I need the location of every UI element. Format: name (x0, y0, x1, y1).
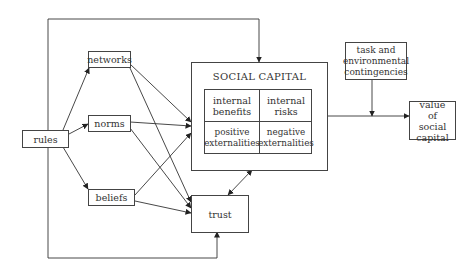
beliefs-label: beliefs (96, 192, 128, 203)
task-contingencies-label: task and environmental contingencies (343, 45, 409, 78)
negative-externalities-cell: negative externalities (260, 122, 312, 153)
value-label: value of social capital (415, 99, 450, 143)
norms-node: norms (88, 115, 131, 132)
networks-label: networks (87, 54, 132, 65)
trust-node: trust (191, 195, 249, 233)
task-contingencies-node: task and environmental contingencies (345, 42, 407, 80)
norms-label: norms (94, 118, 124, 129)
value-of-social-capital-node: value of social capital (409, 101, 456, 140)
social-capital-title: SOCIAL CAPITAL (192, 71, 327, 82)
internal-risks-cell: internal risks (260, 90, 312, 121)
rules-label: rules (33, 134, 57, 145)
social-capital-node: SOCIAL CAPITAL internal benefits interna… (191, 62, 328, 171)
rules-node: rules (22, 130, 69, 148)
positive-externalities-cell: positive externalities (205, 122, 259, 153)
beliefs-node: beliefs (88, 189, 135, 206)
networks-node: networks (88, 51, 131, 68)
internal-benefits-cell: internal benefits (205, 90, 259, 121)
trust-label: trust (208, 209, 231, 220)
social-capital-grid: internal benefits internal risks positiv… (204, 89, 312, 154)
